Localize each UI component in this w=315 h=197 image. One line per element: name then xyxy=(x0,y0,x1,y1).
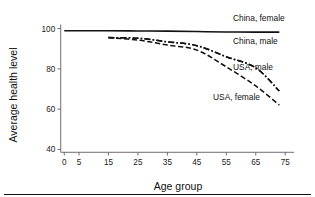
y-tick-label: 100 xyxy=(42,25,56,34)
chart-figure: 406080100 0515253545556575 China, female… xyxy=(0,0,315,197)
y-tick-label: 80 xyxy=(46,65,56,74)
series-label-china-female: China, female xyxy=(233,13,285,23)
y-tick-label: 40 xyxy=(46,145,56,154)
x-tick-label: 15 xyxy=(104,158,114,167)
x-axis-title: Age group xyxy=(154,180,203,192)
series-label-usa-female: USA, female xyxy=(213,92,260,102)
x-tick-label: 45 xyxy=(192,158,202,167)
series-label-china-male: China, male xyxy=(233,36,278,46)
series-label-usa-male: USA, male xyxy=(233,62,273,72)
x-tick-label: 35 xyxy=(163,158,173,167)
x-tick-label: 75 xyxy=(281,158,291,167)
series-line-china-female xyxy=(64,31,279,32)
x-axis-ticks: 0515253545556575 xyxy=(62,152,290,167)
y-axis-ticks: 406080100 xyxy=(42,25,61,155)
x-tick-label: 55 xyxy=(222,158,232,167)
series-inline-labels: China, femaleChina, maleUSA, maleUSA, fe… xyxy=(213,13,285,102)
x-tick-label: 5 xyxy=(77,158,82,167)
x-tick-label: 0 xyxy=(62,158,67,167)
x-tick-label: 25 xyxy=(133,158,143,167)
y-axis-title: Average health level xyxy=(7,48,19,143)
health-level-line-chart: 406080100 0515253545556575 China, female… xyxy=(0,0,315,197)
x-tick-label: 65 xyxy=(251,158,261,167)
y-tick-label: 60 xyxy=(46,105,56,114)
